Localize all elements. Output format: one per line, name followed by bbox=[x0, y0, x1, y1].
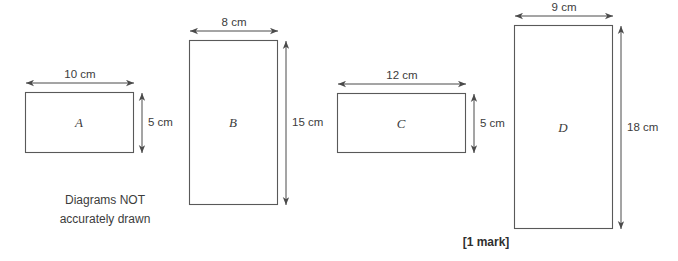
diagram-disclaimer-note: Diagrams NOT accurately drawn bbox=[60, 191, 151, 228]
marks-indicator: [1 mark] bbox=[463, 235, 510, 249]
disclaimer-line-2: accurately drawn bbox=[60, 210, 151, 229]
rect-c-height-label: 5 cm bbox=[480, 118, 505, 130]
rect-d-letter: D bbox=[558, 120, 567, 133]
diagram-canvas: A B C D 10 cm 8 cm 12 cm 9 cm 5 cm 15 cm… bbox=[0, 0, 678, 261]
rect-d-height-label: 18 cm bbox=[627, 122, 658, 134]
rect-d-width-label: 9 cm bbox=[552, 2, 577, 14]
rect-c-letter: C bbox=[397, 116, 406, 129]
rect-c-width-label: 12 cm bbox=[386, 70, 417, 82]
rect-b-height-label: 15 cm bbox=[292, 117, 323, 129]
rect-b-letter: B bbox=[229, 116, 237, 129]
rect-a-height-label: 5 cm bbox=[148, 117, 173, 129]
rect-b-width-label: 8 cm bbox=[222, 17, 247, 29]
disclaimer-line-1: Diagrams NOT bbox=[60, 191, 151, 210]
rect-a-letter: A bbox=[75, 116, 83, 129]
rect-a-width-label: 10 cm bbox=[64, 69, 95, 81]
